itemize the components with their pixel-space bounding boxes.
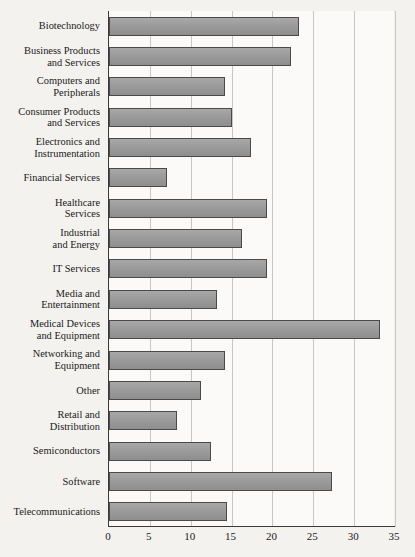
x-tick-label-30: 30: [348, 530, 359, 542]
y-axis-label-line: Semiconductors: [33, 445, 100, 457]
y-axis-label-line: Computers and: [37, 75, 100, 87]
bar-row: [109, 345, 394, 375]
bar-row: [109, 102, 394, 132]
y-axis-label-line: and Equipment: [37, 330, 100, 342]
x-tick-label-10: 10: [184, 530, 195, 542]
bar-financial-services[interactable]: [109, 168, 167, 187]
bar-chart: BiotechnologyBusiness Productsand Servic…: [0, 0, 415, 557]
y-axis-label-line: Entertainment: [41, 299, 100, 311]
bar-row: [109, 193, 394, 223]
bar-other[interactable]: [109, 381, 201, 400]
y-axis-label-electronics-and-instrumentation: Electronics andInstrumentation: [0, 132, 104, 162]
x-tick-label-15: 15: [225, 530, 236, 542]
bar-row: [109, 284, 394, 314]
bar-row: [109, 132, 394, 162]
bar-consumer-products-and-services[interactable]: [109, 108, 232, 127]
y-axis-label-line: Telecommunications: [14, 506, 100, 518]
bar-row: [109, 72, 394, 102]
y-axis-label-business-products-and-services: Business Productsand Services: [0, 41, 104, 71]
bar-business-products-and-services[interactable]: [109, 47, 291, 66]
x-axis-tick-labels: 05101520253035: [0, 530, 415, 550]
y-axis-label-line: Software: [62, 476, 100, 488]
bar-row: [109, 163, 394, 193]
y-axis-label-computers-and-peripherals: Computers andPeripherals: [0, 72, 104, 102]
y-axis-label-other: Other: [0, 375, 104, 405]
x-tick-label-35: 35: [389, 530, 400, 542]
y-axis-label-line: Biotechnology: [39, 20, 100, 32]
y-axis-label-it-services: IT Services: [0, 254, 104, 284]
y-axis-label-semiconductors: Semiconductors: [0, 436, 104, 466]
bar-retail-and-distribution[interactable]: [109, 411, 177, 430]
bar-biotechnology[interactable]: [109, 17, 299, 36]
y-axis-label-line: Consumer Products: [18, 106, 100, 118]
y-axis-label-line: Services: [65, 208, 100, 220]
bar-row: [109, 11, 394, 41]
y-axis-label-line: Financial Services: [24, 172, 100, 184]
y-axis-label-line: Medical Devices: [30, 318, 100, 330]
bar-row: [109, 315, 394, 345]
bar-it-services[interactable]: [109, 259, 267, 278]
y-axis-label-industrial-and-energy: Industrialand Energy: [0, 223, 104, 253]
bar-row: [109, 375, 394, 405]
bar-row: [109, 436, 394, 466]
y-axis-label-line: and Energy: [53, 239, 100, 251]
bar-semiconductors[interactable]: [109, 442, 211, 461]
bar-healthcare-services[interactable]: [109, 199, 267, 218]
bar-electronics-and-instrumentation[interactable]: [109, 138, 251, 157]
bar-software[interactable]: [109, 472, 332, 491]
bar-series: [109, 11, 394, 527]
y-axis-label-line: IT Services: [53, 263, 100, 275]
y-axis-label-line: Media and: [56, 288, 100, 300]
y-axis-label-financial-services: Financial Services: [0, 163, 104, 193]
y-axis-label-line: Other: [76, 385, 100, 397]
y-axis-label-line: Networking and: [33, 348, 100, 360]
bar-medical-devices-and-equipment[interactable]: [109, 320, 380, 339]
y-axis-label-networking-and-equipment: Networking andEquipment: [0, 345, 104, 375]
y-axis-label-line: Equipment: [54, 360, 100, 372]
y-axis-label-consumer-products-and-services: Consumer Productsand Services: [0, 102, 104, 132]
y-axis-label-line: and Services: [47, 117, 100, 129]
bar-computers-and-peripherals[interactable]: [109, 77, 225, 96]
y-axis-label-biotechnology: Biotechnology: [0, 11, 104, 41]
x-tick-label-25: 25: [307, 530, 318, 542]
y-axis-label-media-and-entertainment: Media andEntertainment: [0, 284, 104, 314]
y-axis-label-telecommunications: Telecommunications: [0, 497, 104, 527]
y-axis-label-line: and Services: [47, 57, 100, 69]
x-tick-label-20: 20: [266, 530, 277, 542]
y-axis-label-retail-and-distribution: Retail andDistribution: [0, 406, 104, 436]
x-tick-label-5: 5: [146, 530, 152, 542]
y-axis-category-labels: BiotechnologyBusiness Productsand Servic…: [0, 11, 104, 527]
bar-row: [109, 466, 394, 496]
y-axis-label-line: Industrial: [60, 227, 100, 239]
x-axis-line: [108, 526, 395, 527]
bar-industrial-and-energy[interactable]: [109, 229, 242, 248]
y-axis-label-software: Software: [0, 466, 104, 496]
y-axis-label-line: Electronics and: [36, 136, 100, 148]
y-axis-label-healthcare-services: HealthcareServices: [0, 193, 104, 223]
y-axis-label-line: Instrumentation: [34, 148, 100, 160]
bar-row: [109, 223, 394, 253]
y-axis-label-line: Peripherals: [53, 87, 100, 99]
bar-telecommunications[interactable]: [109, 502, 227, 521]
y-axis-label-line: Distribution: [50, 421, 100, 433]
bar-row: [109, 406, 394, 436]
bar-row: [109, 497, 394, 527]
x-tick-label-0: 0: [105, 530, 111, 542]
y-axis-label-medical-devices-and-equipment: Medical Devicesand Equipment: [0, 315, 104, 345]
y-axis-label-line: Business Products: [24, 45, 100, 57]
bar-row: [109, 254, 394, 284]
bar-networking-and-equipment[interactable]: [109, 351, 225, 370]
y-axis-label-line: Healthcare: [55, 197, 100, 209]
plot-area: [108, 11, 394, 527]
gridline-35: [395, 11, 396, 527]
bar-media-and-entertainment[interactable]: [109, 290, 217, 309]
y-axis-label-line: Retail and: [58, 409, 100, 421]
bar-row: [109, 41, 394, 71]
